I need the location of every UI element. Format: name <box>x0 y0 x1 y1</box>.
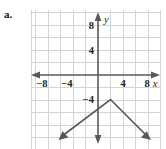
y-tick-label-8: 8 <box>89 20 94 31</box>
y-tick-label-neg4: −4 <box>83 94 95 105</box>
x-tick-label-neg8: −8 <box>36 78 47 89</box>
graph-area: 8 4 −4 −8 −4 4 8 y x <box>0 0 166 149</box>
x-tick-label-8: 8 <box>144 78 149 89</box>
coordinate-plane-svg: 8 4 −4 −8 −4 4 8 y x <box>0 0 166 149</box>
figure-container: a. <box>0 0 166 149</box>
y-axis-name: y <box>103 14 109 25</box>
x-tick-label-neg4: −4 <box>61 78 73 89</box>
x-axis-name: x <box>152 78 158 89</box>
x-tick-label-4: 4 <box>120 78 126 89</box>
plot-background <box>31 10 160 149</box>
y-tick-label-4: 4 <box>89 45 95 56</box>
